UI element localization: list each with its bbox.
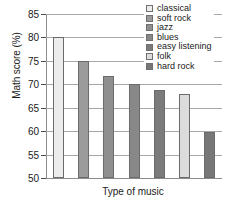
y-tick-mark — [41, 37, 46, 38]
y-tick-label: 60 — [28, 126, 39, 137]
y-tick-mark — [41, 178, 46, 179]
chart-legend: classicalsoft rockjazzblueseasy listenin… — [144, 3, 214, 72]
y-tick-mark — [41, 155, 46, 156]
legend-item-easy-listening: easy listening — [146, 42, 212, 52]
y-tick-mark — [41, 131, 46, 132]
legend-swatch-icon — [146, 44, 153, 51]
y-axis-title: Math score (%) — [11, 6, 22, 126]
bar-jazz — [103, 76, 114, 178]
bar-soft-rock — [78, 61, 89, 178]
x-axis-line — [46, 178, 222, 179]
legend-swatch-icon — [146, 15, 153, 22]
y-tick-label: 65 — [28, 102, 39, 113]
y-tick-mark — [41, 14, 46, 15]
bar-folk — [179, 94, 190, 178]
legend-item-hard-rock: hard rock — [146, 62, 212, 72]
bar-easy-listening — [154, 90, 165, 178]
legend-swatch-icon — [146, 63, 153, 70]
bar-blues — [129, 84, 140, 178]
y-tick-label: 70 — [28, 79, 39, 90]
legend-swatch-icon — [146, 5, 153, 12]
legend-label: hard rock — [157, 62, 195, 72]
y-tick-mark — [41, 108, 46, 109]
legend-swatch-icon — [146, 34, 153, 41]
y-tick-mark — [41, 84, 46, 85]
legend-swatch-icon — [146, 53, 153, 60]
y-tick-label: 85 — [28, 9, 39, 20]
y-tick-label: 50 — [28, 173, 39, 184]
x-axis-title: Type of music — [38, 186, 228, 197]
y-tick-label: 80 — [28, 32, 39, 43]
y-tick-label: 75 — [28, 55, 39, 66]
y-tick-label: 55 — [28, 149, 39, 160]
bar-classical — [53, 37, 64, 178]
legend-swatch-icon — [146, 24, 153, 31]
bar-chart-figure: Math score (%) 5055606570758085 Type of … — [0, 0, 228, 200]
bar-hard-rock — [204, 132, 215, 178]
y-tick-mark — [41, 61, 46, 62]
legend-item-soft-rock: soft rock — [146, 14, 212, 24]
